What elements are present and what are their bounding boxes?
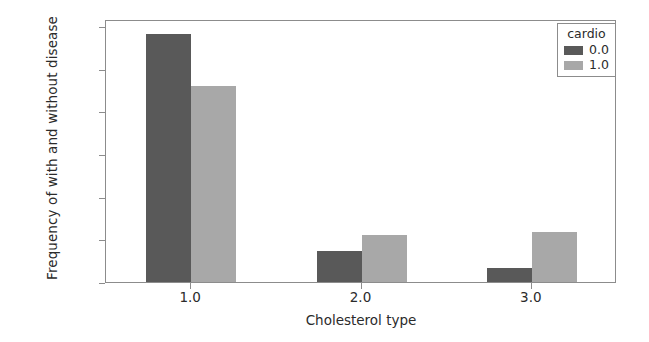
bar	[317, 251, 362, 282]
bars-layer	[106, 21, 615, 282]
bar	[191, 86, 236, 282]
legend-title: cardio	[564, 27, 609, 41]
y-tick-mark	[99, 283, 105, 284]
legend-entries: 0.01.0	[564, 43, 609, 72]
chart-figure: Frequency of with and without disease 05…	[0, 0, 649, 342]
x-tick-label: 2.0	[331, 289, 391, 305]
legend-swatch	[564, 61, 583, 70]
x-tick-label: 1.0	[160, 289, 220, 305]
plot-area	[105, 20, 616, 283]
bar	[487, 268, 532, 282]
legend-item: 1.0	[564, 58, 609, 72]
y-axis-title: Frequency of with and without disease	[44, 0, 60, 298]
x-axis-title: Cholesterol type	[105, 312, 617, 328]
legend-label: 0.0	[589, 43, 609, 57]
legend: cardio 0.01.0	[557, 23, 616, 77]
bar	[146, 34, 191, 282]
bar	[362, 235, 407, 282]
bar	[532, 232, 577, 282]
legend-swatch	[564, 46, 583, 55]
legend-label: 1.0	[589, 58, 609, 72]
x-tick-label: 3.0	[501, 289, 561, 305]
legend-item: 0.0	[564, 43, 609, 57]
